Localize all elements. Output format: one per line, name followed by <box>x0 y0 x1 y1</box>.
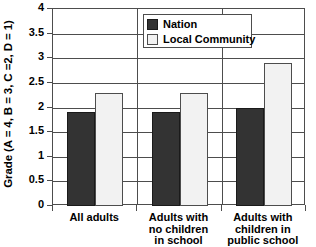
category-separator <box>137 9 138 204</box>
x-axis-tick-mark <box>221 205 222 211</box>
x-axis-tick-mark <box>52 205 53 211</box>
x-axis-category-label: Adults withno childrenin school <box>136 212 220 247</box>
bar <box>152 112 180 206</box>
x-axis-category-label: Adults withchildren inpublic school <box>221 212 305 247</box>
y-axis-tick-label: 2.5 <box>4 76 44 87</box>
legend: Nation Local Community <box>143 14 252 48</box>
legend-label-nation: Nation <box>163 19 197 30</box>
y-axis-tick-label: 3.5 <box>4 27 44 38</box>
y-axis-tick-label: 1.5 <box>4 125 44 136</box>
x-axis-category-label: All adults <box>52 212 136 224</box>
legend-item-local-community: Local Community <box>147 32 251 46</box>
x-axis-category-label-line: in school <box>136 235 220 247</box>
y-axis-tick-label: 4 <box>4 2 44 13</box>
y-axis-tick-label: 3 <box>4 51 44 62</box>
x-axis-category-label-line: Adults with <box>221 212 305 224</box>
x-axis-category-label-line: All adults <box>52 212 136 224</box>
legend-swatch-local-community-icon <box>147 34 158 45</box>
x-axis-category-label-line: public school <box>221 235 305 247</box>
bar <box>95 93 123 206</box>
legend-item-nation: Nation <box>147 17 251 31</box>
y-axis-tick-label: 0.5 <box>4 174 44 185</box>
x-axis-tick-mark <box>136 205 137 211</box>
x-axis-tick-mark <box>305 205 306 211</box>
bar <box>236 108 264 207</box>
bar <box>67 112 95 206</box>
legend-swatch-nation-icon <box>147 19 158 30</box>
y-axis-tick-label: 1 <box>4 150 44 161</box>
y-axis-tick-label: 0 <box>4 199 44 210</box>
bar <box>264 63 292 206</box>
gridline <box>53 58 304 59</box>
legend-label-local-community: Local Community <box>163 34 255 45</box>
x-axis-category-label-line: Adults with <box>136 212 220 224</box>
y-axis-tick-label: 2 <box>4 101 44 112</box>
bar <box>180 93 208 206</box>
